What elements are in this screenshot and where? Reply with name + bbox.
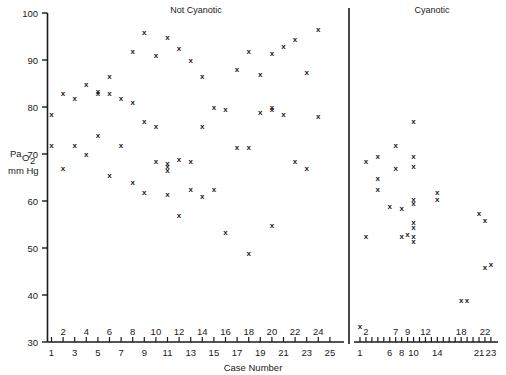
data-point: x (142, 28, 147, 37)
data-point: x (212, 103, 217, 112)
left-panel-upper-labels: 24681012141618202224 (60, 326, 323, 337)
x-tick-label-upper: 22 (290, 326, 301, 337)
data-point: x (411, 162, 416, 171)
x-tick-label-lower: 1 (357, 347, 362, 358)
data-point: x (304, 68, 309, 77)
x-tick-label-upper: 24 (313, 326, 324, 337)
x-tick-label-lower: 17 (232, 347, 243, 358)
data-point: x (246, 249, 251, 258)
data-point: x (270, 49, 275, 58)
data-point: x (399, 204, 404, 213)
data-point: x (142, 188, 147, 197)
data-point: x (96, 89, 101, 98)
x-tick-label-upper: 6 (107, 326, 112, 337)
data-point: x (165, 190, 170, 199)
data-point: x (364, 232, 369, 241)
data-point: x (281, 42, 286, 51)
y-axis-title-sub-o: O (22, 152, 29, 163)
data-point: x (200, 192, 205, 201)
x-tick-label-lower: 3 (72, 347, 77, 358)
data-point: x (411, 199, 416, 208)
data-point: x (399, 232, 404, 241)
data-point: x (376, 152, 381, 161)
data-point: x (177, 155, 182, 164)
data-point: x (293, 35, 298, 44)
data-point: x (435, 195, 440, 204)
x-tick-label-upper: 18 (456, 326, 467, 337)
data-point: x (84, 150, 89, 159)
x-tick-label-lower: 23 (301, 347, 312, 358)
x-tick-label-lower: 15 (209, 347, 220, 358)
data-point: x (177, 44, 182, 53)
data-point: x (364, 157, 369, 166)
x-tick-label-lower: 21 (474, 347, 485, 358)
right-panel-lower-labels: 16810142123 (357, 347, 496, 358)
data-point: x (72, 141, 77, 150)
data-point: x (393, 164, 398, 173)
data-point: x (130, 98, 135, 107)
x-tick-label-upper: 10 (151, 326, 162, 337)
data-point: x (316, 25, 321, 34)
data-point: x (84, 80, 89, 89)
data-point: x (212, 185, 217, 194)
data-point: x (49, 141, 54, 150)
y-axis-title-main: Pa (10, 148, 22, 159)
x-tick-label-lower: 11 (163, 347, 173, 358)
data-point: x (304, 164, 309, 173)
data-point: x (154, 157, 159, 166)
chart-root: 30405060708090100 Pa O 2 mm Hg Not Cyano… (0, 0, 506, 375)
data-point: x (107, 72, 112, 81)
y-tick-label: 50 (27, 243, 38, 254)
data-point: x (235, 65, 240, 74)
y-tick-label: 90 (27, 55, 38, 66)
x-tick-label-upper: 18 (243, 326, 254, 337)
data-point: x (130, 47, 135, 56)
left-panel: Not Cyanotic 24681012141618202224 135791… (48, 5, 345, 358)
data-point: x (258, 70, 263, 79)
x-tick-label-upper: 22 (480, 326, 491, 337)
data-point: x (270, 105, 275, 114)
data-point: x (223, 228, 228, 237)
x-tick-label-lower: 10 (408, 347, 419, 358)
data-point: x (483, 216, 488, 225)
data-point: x (107, 89, 112, 98)
right-panel-upper-labels: 279121822 (363, 326, 490, 337)
x-tick-label-lower: 5 (95, 347, 100, 358)
x-tick-label-upper: 12 (420, 326, 431, 337)
x-tick-label-upper: 4 (84, 326, 89, 337)
data-point: x (130, 178, 135, 187)
right-panel-points: xxxxxxxxxxxxxxxxxxxxxxxxxxxxx (358, 117, 494, 330)
data-point: x (165, 33, 170, 42)
y-tick-label: 30 (27, 337, 38, 348)
data-point: x (246, 47, 251, 56)
y-tick-label: 80 (27, 102, 38, 113)
y-axis-title-units: mm Hg (8, 165, 39, 176)
data-point: x (119, 94, 124, 103)
data-point: x (376, 174, 381, 183)
y-tick-label: 60 (27, 196, 38, 207)
x-tick-label-lower: 25 (325, 347, 336, 358)
data-point: x (459, 296, 464, 305)
data-point: x (49, 110, 54, 119)
data-point: x (246, 143, 251, 152)
data-point: x (376, 185, 381, 194)
x-tick-label-lower: 13 (185, 347, 196, 358)
data-point: x (405, 230, 410, 239)
data-point: x (188, 157, 193, 166)
x-tick-label-lower: 8 (399, 347, 404, 358)
data-point: x (200, 72, 205, 81)
x-tick-label-lower: 23 (486, 347, 497, 358)
left-panel-points: xxxxxxxxxxxxxxxxxxxxxxxxxxxxxxxxxxxxxxxx… (49, 25, 321, 257)
x-tick-label-lower: 19 (255, 347, 266, 358)
data-point: x (154, 51, 159, 60)
data-point: x (483, 263, 488, 272)
data-point: x (223, 105, 228, 114)
data-point: x (165, 166, 170, 175)
data-point: x (358, 322, 363, 331)
data-point: x (154, 122, 159, 131)
data-point: x (411, 152, 416, 161)
data-point: x (270, 221, 275, 230)
x-tick-label-upper: 2 (363, 326, 368, 337)
data-point: x (477, 209, 482, 218)
x-tick-label-upper: 7 (393, 326, 398, 337)
